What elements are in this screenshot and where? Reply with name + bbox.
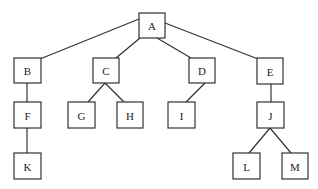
node-label: G — [78, 110, 86, 122]
tree-edges — [27, 19, 291, 153]
edge-a-c — [116, 38, 140, 58]
node-label: K — [24, 161, 32, 173]
node-label: H — [126, 110, 134, 122]
node-label: F — [24, 110, 30, 122]
node-d: D — [189, 58, 215, 83]
tree-nodes: ABCDEFGHIJKLM — [14, 13, 308, 179]
edge-c-g — [88, 83, 105, 102]
edge-d-i — [186, 83, 205, 102]
node-c: C — [93, 58, 119, 83]
node-label: J — [268, 110, 273, 122]
node-label: A — [148, 20, 156, 32]
node-label: B — [24, 65, 31, 77]
node-label: D — [198, 65, 206, 77]
node-label: I — [180, 110, 184, 122]
node-b: B — [14, 58, 41, 83]
node-g: G — [68, 102, 95, 128]
edge-j-l — [249, 128, 270, 153]
node-j: J — [257, 102, 284, 128]
tree-diagram: ABCDEFGHIJKLM — [0, 0, 318, 189]
node-i: I — [168, 102, 195, 128]
node-label: L — [243, 161, 250, 173]
edge-a-d — [157, 38, 191, 58]
node-label: M — [290, 161, 300, 173]
node-k: K — [14, 153, 41, 179]
edge-a-b — [40, 19, 139, 59]
edge-c-h — [105, 83, 124, 102]
edge-a-e — [165, 23, 258, 59]
node-e: E — [257, 58, 283, 84]
node-h: H — [117, 102, 143, 128]
node-a: A — [139, 13, 165, 38]
node-m: M — [282, 153, 308, 179]
node-f: F — [14, 102, 41, 128]
node-label: C — [102, 65, 109, 77]
node-label: E — [267, 66, 274, 78]
edge-j-m — [270, 128, 291, 153]
node-l: L — [233, 153, 260, 179]
